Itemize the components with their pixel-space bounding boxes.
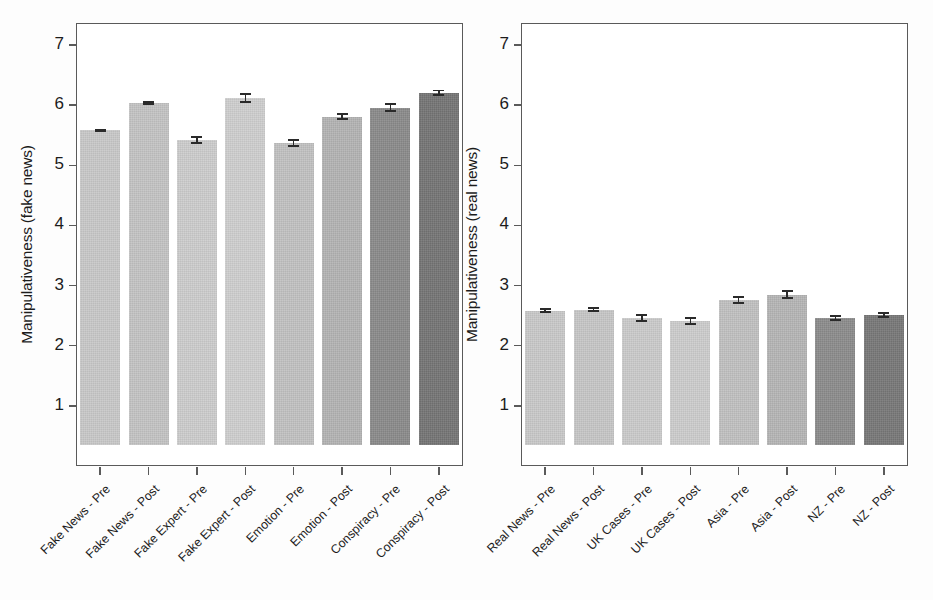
- chart-panel-fake-news: Manipulativeness (fake news) 1234567 Fak…: [0, 0, 470, 600]
- x-tick-mark: [245, 467, 246, 475]
- x-tick-mark: [341, 467, 342, 475]
- x-tick-mark: [738, 467, 739, 475]
- x-tick-mark: [390, 467, 391, 475]
- x-tick-mark: [883, 467, 884, 475]
- x-tick-mark: [835, 467, 836, 475]
- x-tick-mark: [641, 467, 642, 475]
- x-tick-mark: [438, 467, 439, 475]
- x-axis-ticks-right: Real News - PreReal News - PostUK Cases …: [445, 0, 933, 600]
- x-tick-mark: [148, 467, 149, 475]
- x-tick-mark: [786, 467, 787, 475]
- x-tick-mark: [196, 467, 197, 475]
- chart-panel-real-news: Manipulativeness (real news) 1234567 Rea…: [445, 0, 933, 600]
- figure-canvas: Manipulativeness (fake news) 1234567 Fak…: [0, 0, 933, 600]
- x-tick-mark: [593, 467, 594, 475]
- x-axis-ticks-left: Fake News - PreFake News - PostFake Expe…: [0, 0, 488, 600]
- x-tick-mark: [690, 467, 691, 475]
- x-tick-mark: [293, 467, 294, 475]
- x-tick-mark: [544, 467, 545, 475]
- x-tick-mark: [99, 467, 100, 475]
